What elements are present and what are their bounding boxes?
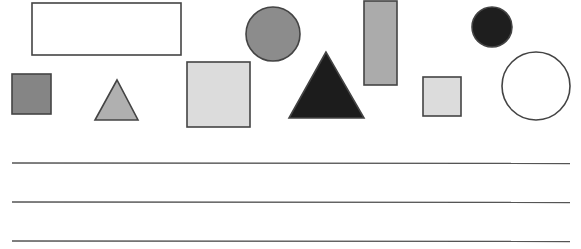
answer-line-1 xyxy=(12,163,570,164)
gray-circle xyxy=(246,7,300,61)
black-triangle xyxy=(289,52,364,118)
white-circle xyxy=(502,52,570,120)
white-rectangle xyxy=(32,3,181,55)
answer-line-2 xyxy=(12,202,570,203)
gray-triangle xyxy=(95,80,138,120)
answer-line-3 xyxy=(12,241,570,242)
tall-gray-rectangle xyxy=(364,1,397,85)
light-gray-square xyxy=(187,62,250,127)
dark-gray-square xyxy=(12,74,51,114)
shapes-diagram xyxy=(0,0,581,249)
small-light-square xyxy=(423,77,461,116)
black-circle xyxy=(472,7,512,47)
